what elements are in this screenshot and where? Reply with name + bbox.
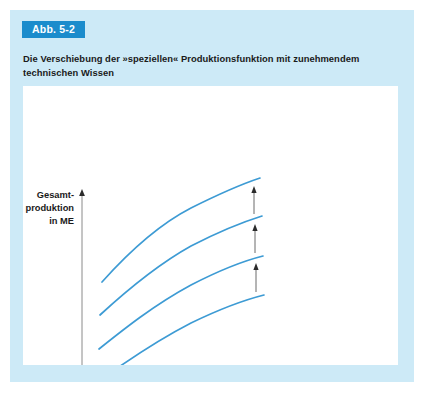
chart-plate: Gesamt- produktion in ME Kapitaleinsatz … [23,86,398,365]
figure-number-badge: Abb. 5-2 [22,21,85,38]
y-axis-label-line-2: produktion [25,203,74,213]
figure-caption: Die Verschiebung der »speziellen« Produk… [23,52,395,79]
curve-group [99,178,264,365]
shift-arrow-1-head [253,263,258,270]
production-function-chart: Gesamt- produktion in ME Kapitaleinsatz … [23,86,398,365]
shift-arrow-2-head [252,224,257,231]
y-axis-label: Gesamt- produktion in ME [25,190,74,226]
shift-arrow-group [251,186,258,292]
y-axis [79,189,85,365]
y-axis-label-line-3: in ME [49,216,74,226]
production-curve-4 [102,178,260,282]
shift-arrow-2 [252,224,257,253]
shift-arrow-3 [251,186,256,214]
shift-arrow-3-head [251,186,256,193]
figure-panel: Abb. 5-2 Die Verschiebung der »spezielle… [10,10,414,382]
shift-arrow-1 [253,263,258,292]
y-axis-arrowhead [79,189,85,196]
y-axis-label-line-1: Gesamt- [37,190,74,200]
production-curve-3 [100,216,262,315]
